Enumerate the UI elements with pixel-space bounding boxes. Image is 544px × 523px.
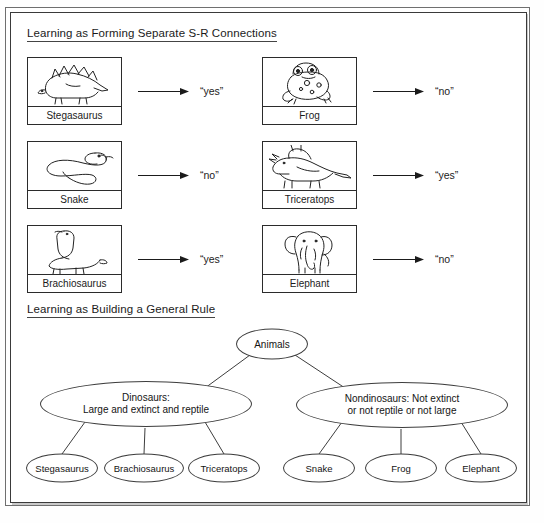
card-label: Stegasaurus: [28, 106, 121, 124]
tree-node-dinosaurs[interactable]: Dinosaurs: Large and extinct and reptile: [40, 381, 252, 427]
stimulus-card-brachiosaurus[interactable]: Brachiosaurus: [27, 225, 122, 293]
stegosaurus-icon: [28, 58, 121, 108]
tree-leaf-elephant[interactable]: Elephant: [445, 454, 517, 483]
response-stegasaurus: “yes”: [200, 85, 223, 97]
figure-canvas: Learning as Forming Separate S-R Connect…: [0, 0, 544, 523]
tree-leaf-frog[interactable]: Frog: [365, 454, 437, 483]
response-triceratops: “yes”: [435, 169, 458, 181]
arrow-snake: [138, 171, 190, 180]
section-title-sr-connections: Learning as Forming Separate S-R Connect…: [27, 27, 277, 42]
arrow-triceratops: [373, 171, 425, 180]
response-snake: “no”: [200, 169, 219, 181]
section-title-general-rule: Learning as Building a General Rule: [27, 303, 215, 318]
card-label: Frog: [263, 106, 356, 124]
frog-icon: [263, 58, 356, 108]
card-label: Brachiosaurus: [28, 274, 121, 292]
tree-leaf-triceratops[interactable]: Triceratops: [188, 454, 260, 483]
tree-leaf-snake[interactable]: Snake: [283, 454, 355, 483]
snake-icon: [28, 142, 121, 192]
tree-leaf-stegasaurus[interactable]: Stegasaurus: [26, 454, 98, 483]
stimulus-card-triceratops[interactable]: Triceratops: [262, 141, 357, 209]
card-label: Snake: [28, 190, 121, 208]
brachiosaurus-icon: [28, 226, 121, 276]
arrow-elephant: [373, 255, 425, 264]
stimulus-card-snake[interactable]: Snake: [27, 141, 122, 209]
response-frog: “no”: [435, 85, 454, 97]
response-elephant: “no”: [435, 253, 454, 265]
arrow-stegasaurus: [138, 87, 190, 96]
tree-node-nondinosaurs[interactable]: Nondinosaurs: Not extinct or not reptile…: [296, 382, 508, 428]
frame-shadow-bottom: [12, 503, 528, 505]
elephant-icon: [263, 226, 356, 276]
stimulus-card-elephant[interactable]: Elephant: [262, 225, 357, 293]
card-label: Triceratops: [263, 190, 356, 208]
stimulus-card-frog[interactable]: Frog: [262, 57, 357, 125]
card-label: Elephant: [263, 274, 356, 292]
response-brachiosaurus: “yes”: [200, 253, 223, 265]
arrow-brachiosaurus: [138, 255, 190, 264]
arrow-frog: [373, 87, 425, 96]
triceratops-icon: [263, 142, 356, 192]
stimulus-card-stegasaurus[interactable]: Stegasaurus: [27, 57, 122, 125]
tree-node-root-animals[interactable]: Animals: [236, 329, 308, 360]
tree-leaf-brachiosaurus[interactable]: Brachiosaurus: [104, 454, 184, 483]
